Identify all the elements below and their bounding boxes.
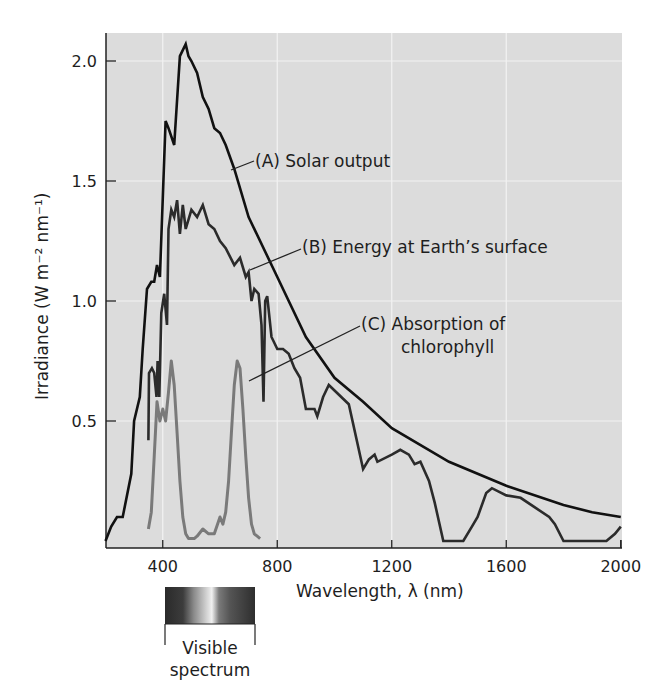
plot-area — [106, 33, 622, 548]
irradiance-chart: 0.51.01.52.0 400800120016002000 (A) Sola… — [0, 0, 669, 694]
x-tick-label: 1600 — [486, 557, 527, 576]
x-tick-label: 1200 — [371, 557, 412, 576]
x-axis-title: Wavelength, λ (nm) — [296, 581, 464, 601]
visible-spectrum-bar — [165, 587, 255, 624]
annotation-solar-output: (A) Solar output — [255, 151, 390, 171]
x-tick-label: 400 — [147, 557, 178, 576]
y-axis-title: Irradiance (W m⁻² nm⁻¹) — [32, 193, 52, 400]
annotation-chlorophyll-line2: chlorophyll — [401, 337, 494, 357]
y-tick-label: 0.5 — [72, 412, 97, 431]
y-tick-label: 1.0 — [72, 292, 97, 311]
annotation-chlorophyll-line1: (C) Absorption of — [361, 314, 506, 334]
x-tick-label: 2000 — [600, 557, 641, 576]
y-tick-label: 1.5 — [72, 172, 97, 191]
annotation-earth-surface: (B) Energy at Earth’s surface — [302, 237, 548, 257]
y-tick-label: 2.0 — [72, 52, 97, 71]
x-tick-label: 800 — [262, 557, 293, 576]
visible-spectrum-label-line2: spectrum — [170, 660, 250, 680]
visible-spectrum-label-line1: Visible — [182, 638, 238, 658]
